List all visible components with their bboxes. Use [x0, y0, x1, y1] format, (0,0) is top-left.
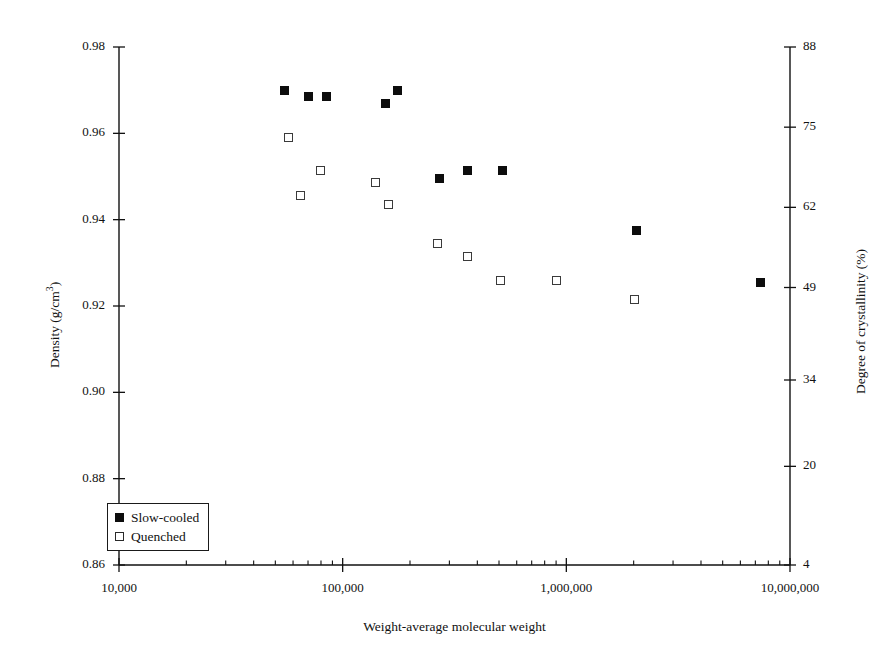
ytick-label-right: 88 [803, 38, 843, 54]
legend-item[interactable]: Slow-cooled [115, 508, 199, 527]
ytick-label-right: 62 [803, 198, 843, 214]
ytick-label-left: 0.94 [59, 211, 105, 227]
filled-square-icon [115, 513, 124, 522]
xtick-label: 10,000 [69, 580, 169, 596]
data-point-slow-cooled [498, 166, 507, 175]
data-point-slow-cooled [304, 92, 313, 101]
data-point-slow-cooled [280, 86, 289, 95]
data-point-quenched [316, 166, 325, 175]
ytick-label-left: 0.88 [59, 470, 105, 486]
data-point-slow-cooled [393, 86, 402, 95]
ytick-label-right: 4 [803, 556, 843, 572]
data-point-slow-cooled [322, 92, 331, 101]
xtick-label: 1,000,000 [516, 580, 616, 596]
xtick-label: 100,000 [293, 580, 393, 596]
data-point-slow-cooled [435, 174, 444, 183]
ytick-label-left: 0.92 [59, 297, 105, 313]
data-point-quenched [296, 191, 305, 200]
data-point-slow-cooled [756, 278, 765, 287]
chart-legend: Slow-cooledQuenched [107, 503, 209, 551]
legend-label: Quenched [131, 530, 186, 544]
x-axis-title: Weight-average molecular weight [119, 619, 790, 635]
chart-axes [0, 0, 875, 656]
ytick-label-left: 0.96 [59, 124, 105, 140]
data-point-quenched [384, 200, 393, 209]
ytick-label-left: 0.98 [59, 38, 105, 54]
data-point-slow-cooled [463, 166, 472, 175]
data-point-quenched [371, 178, 380, 187]
ytick-label-right: 20 [803, 457, 843, 473]
ytick-label-left: 0.86 [59, 556, 105, 572]
data-point-slow-cooled [381, 99, 390, 108]
ytick-label-right: 34 [803, 371, 843, 387]
data-point-quenched [496, 276, 505, 285]
data-point-quenched [552, 276, 561, 285]
data-point-slow-cooled [632, 226, 641, 235]
data-point-quenched [284, 133, 293, 142]
data-point-quenched [463, 252, 472, 261]
legend-label: Slow-cooled [131, 511, 199, 525]
ytick-label-right: 75 [803, 118, 843, 134]
secondary-y-axis-title: Degree of crystallinity (%) [853, 249, 869, 394]
scatter-chart: 0.860.880.900.920.940.960.98420344962758… [0, 0, 875, 656]
ytick-label-right: 49 [803, 279, 843, 295]
data-point-quenched [433, 239, 442, 248]
xtick-label: 10,000,000 [740, 580, 840, 596]
ytick-label-left: 0.90 [59, 383, 105, 399]
data-point-quenched [630, 295, 639, 304]
y-axis-title: Density (g/cm3) [44, 282, 63, 368]
legend-item[interactable]: Quenched [115, 527, 199, 546]
open-square-icon [115, 532, 124, 541]
